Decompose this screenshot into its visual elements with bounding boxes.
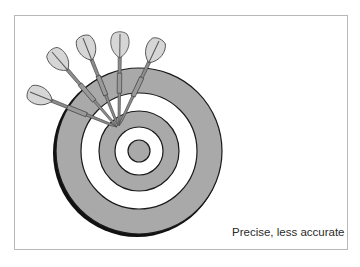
dartboard-figure: Precise, less accurate: [0, 0, 360, 267]
figure-caption: Precise, less accurate: [232, 226, 345, 238]
target-icon: [53, 68, 222, 237]
